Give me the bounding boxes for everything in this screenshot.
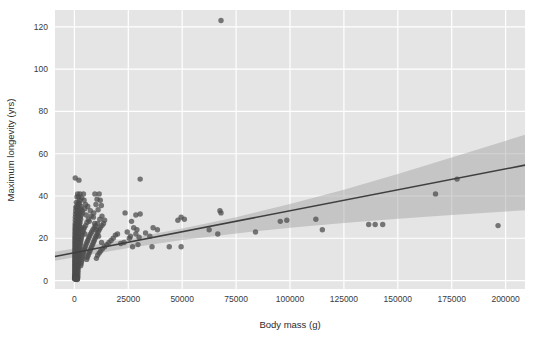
data-point <box>380 222 385 227</box>
data-point <box>320 227 325 232</box>
data-point <box>433 191 438 196</box>
data-point <box>284 218 289 223</box>
data-point <box>253 229 258 234</box>
data-point <box>76 177 81 182</box>
data-point <box>182 217 187 222</box>
y-tick-label: 60 <box>39 149 49 159</box>
y-tick-label: 40 <box>39 191 49 201</box>
data-point <box>167 244 172 249</box>
data-point <box>79 225 84 230</box>
data-point <box>495 223 500 228</box>
data-point <box>206 227 211 232</box>
data-point <box>93 202 98 207</box>
data-point <box>218 210 223 215</box>
x-tick-label: 75000 <box>224 294 248 304</box>
y-axis-title: Maximum longevity (yrs) <box>5 99 16 202</box>
data-point <box>95 207 100 212</box>
x-tick-label: 0 <box>72 294 77 304</box>
data-point <box>218 18 223 23</box>
data-point <box>76 219 81 224</box>
data-point <box>137 211 142 216</box>
data-point <box>122 210 127 215</box>
data-point <box>178 244 183 249</box>
data-point <box>94 227 99 232</box>
data-point <box>99 240 104 245</box>
data-point <box>84 212 89 217</box>
x-tick-label: 175000 <box>438 294 467 304</box>
data-point <box>313 217 318 222</box>
data-point <box>98 198 103 203</box>
data-point <box>127 236 132 241</box>
x-tick-label: 125000 <box>330 294 359 304</box>
y-tick-label: 20 <box>39 233 49 243</box>
data-point <box>137 176 142 181</box>
data-point <box>135 242 140 247</box>
data-point <box>96 233 101 238</box>
y-tick-label: 80 <box>39 106 49 116</box>
data-point <box>87 219 92 224</box>
x-axis-title: Body mass (g) <box>259 319 320 330</box>
chart-container: 0250005000075000100000125000150000175000… <box>0 0 539 340</box>
data-point <box>130 244 135 249</box>
data-point <box>92 221 97 226</box>
data-point <box>79 208 84 213</box>
x-tick-label: 200000 <box>491 294 520 304</box>
x-axis-tick-labels: 0250005000075000100000125000150000175000… <box>72 294 520 304</box>
data-point <box>215 231 220 236</box>
data-point <box>91 214 96 219</box>
data-point <box>94 256 99 261</box>
data-point <box>75 210 80 215</box>
x-tick-label: 150000 <box>384 294 413 304</box>
data-point <box>366 222 371 227</box>
y-tick-label: 0 <box>43 276 48 286</box>
x-tick-label: 50000 <box>170 294 194 304</box>
data-point <box>82 231 87 236</box>
data-point <box>77 198 82 203</box>
data-point <box>96 191 101 196</box>
data-point <box>143 230 148 235</box>
data-point <box>278 219 283 224</box>
data-point <box>74 204 79 209</box>
data-point <box>84 257 89 262</box>
x-tick-label: 25000 <box>116 294 140 304</box>
data-point <box>129 219 134 224</box>
data-point <box>175 218 180 223</box>
data-point <box>88 208 93 213</box>
data-point <box>75 277 80 282</box>
data-point <box>372 222 377 227</box>
data-point <box>149 244 154 249</box>
x-tick-label: 100000 <box>276 294 305 304</box>
scatter-plot: 0250005000075000100000125000150000175000… <box>0 0 539 340</box>
y-tick-label: 100 <box>34 64 48 74</box>
data-point <box>155 227 160 232</box>
y-tick-label: 120 <box>34 22 48 32</box>
